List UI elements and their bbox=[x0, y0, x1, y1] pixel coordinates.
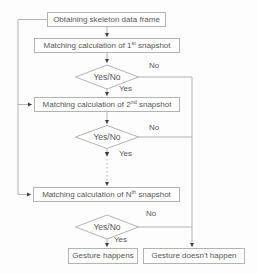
process-label: Matching calculation of Nth snapshot bbox=[42, 191, 171, 199]
decision-1-no-label: No bbox=[149, 62, 159, 70]
process-label: Matching calculation of 2nd snapshot bbox=[43, 101, 172, 109]
terminal-label: Gesture happens bbox=[72, 252, 133, 260]
decision-3-label: Yes/No bbox=[81, 221, 133, 233]
terminal-gesture-doesnt-happen: Gesture doesn't happen bbox=[143, 248, 245, 264]
terminal-label: Gesture doesn't happen bbox=[151, 252, 236, 260]
decision-2-label: Yes/No bbox=[81, 131, 133, 143]
decision-2-no-label: No bbox=[149, 124, 159, 132]
process-matching-calculation-1st-snapshot: Matching calculation of 1st snapshot bbox=[34, 38, 180, 53]
decision-2-yes-label: Yes bbox=[119, 150, 132, 158]
decision-1-label: Yes/No bbox=[81, 71, 133, 83]
decision-3-no-label: No bbox=[146, 210, 156, 218]
ordinal-superscript: th bbox=[132, 189, 137, 195]
decision-3-yes-label: Yes bbox=[114, 236, 127, 244]
process-matching-calculation-nth-snapshot: Matching calculation of Nth snapshot bbox=[33, 187, 180, 202]
gesture-recognition-flowchart: Obtaining skeleton data frame Matching c… bbox=[0, 0, 257, 274]
process-obtaining-skeleton-data-frame: Obtaining skeleton data frame bbox=[47, 12, 166, 27]
ordinal-superscript: st bbox=[132, 40, 136, 46]
ordinal-superscript: nd bbox=[131, 99, 137, 105]
decision-1-yes-label: Yes bbox=[119, 85, 132, 93]
process-label: Obtaining skeleton data frame bbox=[53, 16, 160, 24]
terminal-gesture-happens: Gesture happens bbox=[68, 248, 138, 264]
process-label: Matching calculation of 1st snapshot bbox=[43, 42, 170, 50]
process-matching-calculation-2nd-snapshot: Matching calculation of 2nd snapshot bbox=[34, 97, 180, 112]
